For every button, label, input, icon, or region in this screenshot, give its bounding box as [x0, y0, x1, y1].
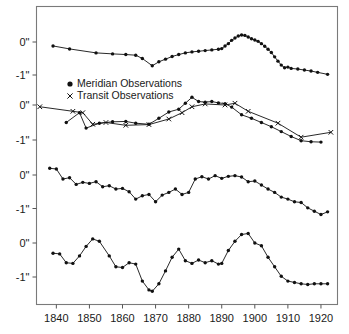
data-point — [78, 254, 81, 257]
data-point — [124, 53, 127, 56]
data-point — [326, 73, 329, 76]
data-point — [210, 100, 213, 103]
data-point — [190, 50, 193, 53]
data-point — [270, 125, 273, 128]
data-point — [197, 258, 200, 261]
data-point — [266, 256, 269, 259]
data-point — [134, 197, 137, 200]
data-point — [266, 187, 269, 190]
y-tick-label-sun-1: -1" — [16, 69, 30, 81]
data-point — [319, 282, 322, 285]
data-point — [151, 64, 154, 67]
data-point — [91, 237, 94, 240]
data-point — [187, 191, 190, 194]
data-point — [250, 37, 253, 40]
data-point — [108, 254, 111, 257]
data-point — [94, 51, 97, 54]
y-tick-label-venus-1: -1" — [16, 203, 30, 215]
data-point — [309, 140, 312, 143]
data-point — [293, 200, 296, 203]
data-point — [273, 55, 276, 58]
data-point — [194, 177, 197, 180]
data-point — [299, 282, 302, 285]
data-point — [296, 67, 299, 70]
data-point — [253, 241, 256, 244]
data-point — [160, 193, 163, 196]
data-point — [170, 256, 173, 259]
data-point — [256, 40, 259, 43]
data-point — [246, 35, 249, 38]
data-point — [220, 47, 223, 50]
data-point — [147, 288, 150, 291]
data-point — [240, 175, 243, 178]
data-point — [260, 244, 263, 247]
data-point — [306, 283, 309, 286]
data-point — [210, 48, 213, 51]
data-point — [141, 194, 144, 197]
data-point — [114, 265, 117, 268]
data-point — [286, 65, 289, 68]
data-point — [280, 195, 283, 198]
data-point — [141, 279, 144, 282]
data-point — [81, 181, 84, 184]
data-point — [203, 49, 206, 52]
data-point — [61, 177, 64, 180]
data-point — [84, 245, 87, 248]
data-point — [108, 184, 111, 187]
data-point — [101, 185, 104, 188]
data-point — [289, 135, 292, 138]
data-point — [260, 42, 263, 45]
data-point — [263, 45, 266, 48]
x-tick-label-1840: 1840 — [44, 312, 68, 324]
data-point — [68, 176, 71, 179]
data-point — [174, 187, 177, 190]
data-point — [233, 240, 236, 243]
data-point — [319, 213, 322, 216]
data-point — [170, 55, 173, 58]
data-point — [111, 52, 114, 55]
data-point — [217, 48, 220, 51]
data-point — [240, 233, 243, 236]
data-point — [240, 33, 243, 36]
data-point — [220, 262, 223, 265]
data-point — [141, 57, 144, 60]
data-point — [147, 193, 150, 196]
data-point — [184, 259, 187, 262]
data-point — [74, 183, 77, 186]
x-tick-label-1920: 1920 — [309, 312, 333, 324]
data-point — [213, 174, 216, 177]
data-point — [154, 200, 157, 203]
figure-container: 184018501860187018801890190019101920 0"-… — [0, 0, 349, 334]
data-point — [124, 120, 127, 123]
data-point — [230, 105, 233, 108]
data-point — [227, 42, 230, 45]
data-point — [200, 175, 203, 178]
data-point — [273, 191, 276, 194]
data-point — [98, 240, 101, 243]
data-point — [151, 290, 154, 293]
data-point — [65, 121, 68, 124]
data-point — [121, 266, 124, 269]
data-point — [127, 261, 130, 264]
data-point — [253, 38, 256, 41]
data-point — [190, 262, 193, 265]
data-point — [88, 182, 91, 185]
data-point — [184, 102, 187, 105]
data-point — [127, 190, 130, 193]
data-point — [260, 121, 263, 124]
data-point — [303, 68, 306, 71]
data-point — [68, 47, 71, 50]
data-point — [237, 34, 240, 37]
data-point — [184, 51, 187, 54]
data-point — [197, 100, 200, 103]
data-point — [260, 183, 263, 186]
x-tick-label-1890: 1890 — [209, 312, 233, 324]
x-axis-tick-labels: 184018501860187018801890190019101920 — [44, 312, 333, 324]
data-point — [207, 177, 210, 180]
data-point — [94, 180, 97, 183]
data-point — [227, 249, 230, 252]
data-point — [84, 126, 87, 129]
data-point — [266, 48, 269, 51]
data-point — [197, 50, 200, 53]
data-point — [253, 179, 256, 182]
